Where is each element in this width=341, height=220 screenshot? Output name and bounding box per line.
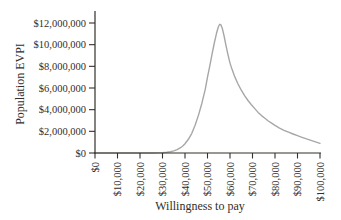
evpi-curve [95, 24, 320, 153]
x-tick-label: $20,000 [135, 162, 146, 196]
x-tick-label: $30,000 [157, 162, 168, 196]
y-tick-label: $10,000,000 [34, 39, 87, 50]
y-tick-label: $8,000,000 [39, 61, 86, 72]
x-tick-label: $10,000 [112, 162, 123, 196]
y-tick-label: $2,000,000 [39, 126, 86, 137]
x-axis-title: Willingness to pay [155, 199, 245, 214]
y-tick-label: $12,000,000 [34, 18, 87, 29]
x-tick-label: $60,000 [225, 162, 236, 196]
x-tick-label: $40,000 [180, 162, 191, 196]
x-tick-label: $50,000 [202, 162, 213, 196]
y-tick-label: $6,000,000 [39, 83, 86, 94]
evpi-chart-figure: $0$2,000,000$4,000,000$6,000,000$8,000,0… [0, 0, 341, 220]
x-tick-label: $80,000 [270, 162, 281, 196]
x-tick-label: $90,000 [292, 162, 303, 196]
x-tick-label: $0 [90, 162, 101, 173]
x-tick-label: $100,000 [315, 162, 326, 201]
y-tick-label: $0 [76, 148, 87, 159]
y-tick-label: $4,000,000 [39, 104, 86, 115]
chart-canvas: $0$2,000,000$4,000,000$6,000,000$8,000,0… [0, 0, 341, 220]
y-axis-title: Population EVPI [13, 43, 28, 125]
x-tick-label: $70,000 [247, 162, 258, 196]
